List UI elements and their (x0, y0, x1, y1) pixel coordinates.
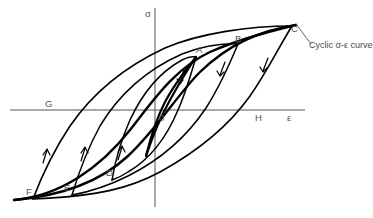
arrow-down-loop2-icon (217, 62, 225, 76)
point-label-c: C (291, 24, 298, 34)
origin-label: 0 (159, 113, 164, 123)
point-label-a: A (196, 45, 202, 55)
point-label-b: B (235, 34, 241, 44)
epsilon-axis-label: ε (287, 113, 291, 123)
point-label-h: H (255, 113, 262, 123)
flow-arrows-down (177, 58, 268, 84)
point-label-d: D (106, 168, 113, 178)
point-label-f: F (26, 187, 32, 197)
point-label-e: E (64, 183, 70, 193)
axes-group (10, 8, 305, 207)
sigma-axis-label: σ (145, 9, 151, 19)
cyclic-curve-caption: Cyclic σ-ε curve (309, 41, 373, 50)
point-label-g: G (45, 99, 52, 109)
